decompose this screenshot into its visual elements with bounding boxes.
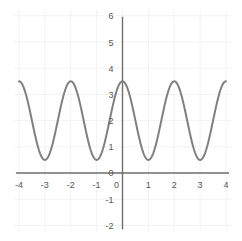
- y-tick-label: 3: [108, 90, 113, 100]
- x-tick-label: -1: [93, 180, 101, 190]
- x-tick-label: 2: [172, 180, 177, 190]
- y-tick-label: 6: [108, 11, 113, 21]
- y-tick-label: 5: [108, 38, 113, 48]
- y-tick-label: 4: [108, 64, 113, 74]
- x-tick-label: -3: [41, 180, 49, 190]
- chart-container: -4-3-2-101234 654321-1-20: [0, 0, 242, 241]
- y-tick-label: 1: [108, 142, 113, 152]
- x-tick-label: -2: [67, 180, 75, 190]
- y-tick-label-zero: 0: [108, 168, 113, 178]
- x-tick-label: 4: [223, 180, 228, 190]
- y-tick-label: -2: [105, 221, 113, 231]
- y-tick-label: -1: [105, 195, 113, 205]
- x-tick-label: 1: [146, 180, 151, 190]
- cosine-plot: -4-3-2-101234 654321-1-20: [0, 0, 242, 241]
- x-tick-label: 3: [198, 180, 203, 190]
- y-tick-label: 2: [108, 116, 113, 126]
- x-tick-label: 0: [114, 180, 119, 190]
- x-tick-label: -4: [15, 180, 23, 190]
